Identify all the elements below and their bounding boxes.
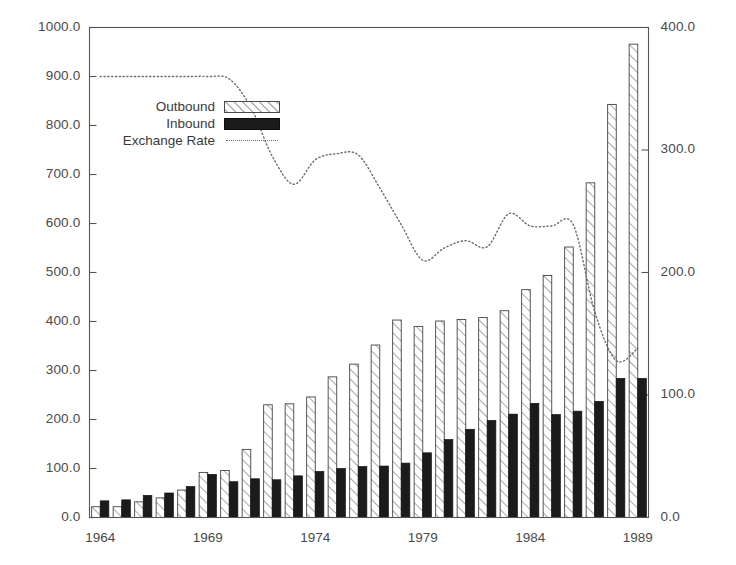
outbound-bar	[586, 183, 595, 518]
inbound-bar	[358, 467, 367, 518]
chart-legend: Outbound Inbound Exchange Rate	[96, 98, 280, 149]
outbound-bar	[242, 449, 251, 517]
y-axis-right-ticks	[642, 150, 649, 395]
outbound-bar	[199, 472, 208, 517]
outbound-bar	[565, 247, 574, 517]
inbound-bar	[165, 493, 174, 518]
outbound-bar	[436, 321, 445, 517]
inbound-bar	[272, 480, 281, 518]
outbound-bar	[178, 490, 187, 517]
outbound-bar	[629, 44, 638, 517]
outbound-bar	[135, 502, 144, 518]
inbound-bar	[466, 429, 475, 517]
inbound-bar	[401, 463, 410, 517]
plot-area	[0, 0, 736, 565]
legend-label-outbound: Outbound	[156, 99, 224, 114]
outbound-bar	[414, 326, 423, 517]
inbound-bar	[208, 474, 217, 517]
outbound-bar	[543, 275, 552, 517]
inbound-bar	[315, 471, 324, 517]
inbound-bar	[337, 469, 346, 518]
outbound-bar	[350, 364, 359, 517]
inbound-bar	[616, 378, 625, 517]
inbound-bar	[294, 476, 303, 518]
legend-item-exchange-rate: Exchange Rate	[96, 132, 280, 149]
outbound-bar	[307, 397, 316, 518]
outbound-bar	[113, 507, 122, 518]
legend-item-outbound: Outbound	[96, 98, 280, 115]
hatched-bar-swatch	[224, 101, 280, 113]
inbound-bar	[122, 500, 131, 518]
inbound-bar	[487, 420, 496, 517]
outbound-bar	[500, 311, 509, 518]
outbound-bar	[285, 404, 294, 518]
outbound-bar	[393, 320, 402, 517]
inbound-bar	[251, 479, 260, 518]
inbound-bar	[186, 487, 195, 518]
inbound-bar	[573, 411, 582, 517]
outbound-bar	[328, 377, 337, 518]
outbound-bar	[479, 318, 488, 518]
outbound-bar	[522, 290, 531, 518]
inbound-bar	[444, 440, 453, 518]
outbound-bar	[221, 470, 230, 517]
outbound-bar	[264, 405, 273, 518]
inbound-bar	[595, 401, 604, 517]
inbound-bar	[552, 415, 561, 518]
inbound-bar	[509, 414, 518, 517]
inbound-bar	[380, 466, 389, 517]
outbound-bar	[156, 498, 165, 518]
inbound-bar	[229, 482, 238, 518]
inbound-bar	[638, 378, 647, 517]
outbound-bar	[371, 345, 380, 517]
inbound-bar	[100, 501, 109, 518]
inbound-bar	[423, 453, 432, 518]
outbound-bar	[457, 320, 466, 518]
outbound-bar	[608, 104, 617, 517]
legend-label-inbound: Inbound	[166, 116, 224, 131]
legend-label-exchange-rate: Exchange Rate	[123, 133, 224, 148]
inbound-bar	[143, 495, 152, 517]
solid-bar-swatch	[224, 118, 280, 130]
inbound-bar	[530, 403, 539, 517]
outbound-bar	[92, 507, 101, 518]
legend-item-inbound: Inbound	[96, 115, 280, 132]
dotted-line-swatch	[224, 135, 280, 147]
chart-figure: 0.0100.0200.0300.0400.0500.0600.0700.080…	[0, 0, 736, 565]
